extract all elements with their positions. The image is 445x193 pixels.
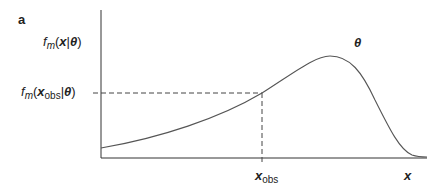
density-curve <box>101 56 427 157</box>
likelihood-plot <box>0 0 445 193</box>
